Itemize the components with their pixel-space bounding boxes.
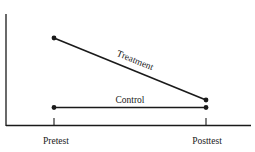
treatment-point-pretest xyxy=(52,36,57,41)
control-point-posttest xyxy=(204,105,209,110)
chart-canvas: Treatment Control Pretest Posttest xyxy=(0,0,255,152)
series-control xyxy=(52,105,209,110)
treatment-line xyxy=(54,38,206,100)
control-point-pretest xyxy=(52,105,57,110)
x-label-pretest: Pretest xyxy=(43,136,69,146)
series-treatment xyxy=(52,36,209,103)
control-label: Control xyxy=(115,95,144,105)
x-label-posttest: Posttest xyxy=(192,136,222,146)
treatment-label: Treatment xyxy=(115,48,155,72)
treatment-point-posttest xyxy=(204,98,209,103)
